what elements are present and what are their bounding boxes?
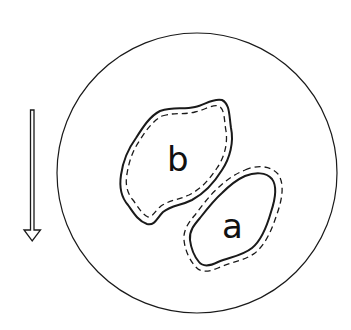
diagram-canvas: b a [0, 0, 351, 330]
field-circle [57, 33, 337, 313]
label-a: a [222, 206, 243, 246]
down-arrow-icon [24, 110, 41, 241]
label-b: b [167, 139, 189, 179]
